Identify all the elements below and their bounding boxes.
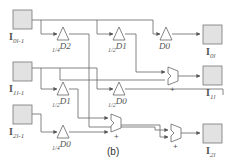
output-box-0 (203, 25, 222, 44)
output-label-2: I2l (206, 146, 215, 159)
adder-sign-row1: + (170, 86, 175, 94)
gain-triangle-half-d0 (113, 82, 125, 95)
adder-sign-bottom-left: + (114, 133, 119, 141)
gain-label-half-d0: 1/2D0 (108, 97, 127, 108)
gain-triangle-half-d1 (113, 27, 125, 40)
gain-triangle-d0 (160, 27, 172, 40)
input-box-2 (13, 105, 32, 124)
figure-caption: (b) (107, 147, 119, 157)
output-label-0: I0l (206, 47, 215, 60)
gain-label-half-d1-row2: 1/2D1 (52, 97, 71, 108)
input-box-1 (13, 62, 32, 81)
adder-row1 (168, 67, 178, 85)
gain-label-quarter-d2: 1/4D2 (52, 42, 71, 53)
gain-label-d0: D0 (159, 42, 170, 51)
gain-triangle-quarter-d0 (57, 125, 69, 138)
input-box-0 (13, 10, 32, 29)
gain-label-half-d1: 1/2D1 (108, 42, 127, 53)
output-box-2 (203, 124, 222, 143)
input-label-2: I2l-1 (9, 127, 24, 140)
gain-triangle-quarter-d2 (57, 27, 69, 40)
gain-triangle-half-d1-row2 (57, 82, 69, 95)
output-box-1 (203, 66, 222, 85)
input-label-0: I0l-1 (9, 32, 24, 45)
adder-sign-bottom-right: + (173, 143, 178, 151)
input-label-1: I1l-1 (9, 84, 24, 97)
gain-label-quarter-d0: 1/4D0 (52, 140, 71, 151)
output-label-1: I1l (206, 88, 215, 101)
adder-bottom-left (111, 114, 121, 132)
adder-bottom-right (171, 124, 181, 142)
